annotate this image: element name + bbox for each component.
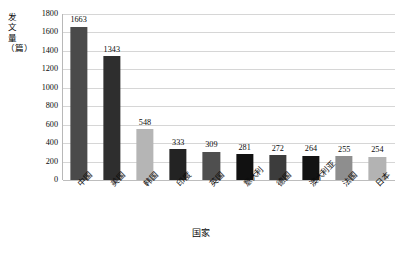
bar-group: 1663 bbox=[62, 14, 95, 180]
y-axis-title: 发文量（篇） bbox=[6, 12, 19, 54]
bar-value-label: 333 bbox=[172, 139, 184, 147]
bar-chart: 发文量（篇） 020040060080010001200140016001800… bbox=[0, 0, 401, 255]
bar-group: 272 bbox=[261, 14, 294, 180]
bar bbox=[70, 27, 87, 180]
bar-value-label: 1663 bbox=[70, 16, 86, 24]
y-axis-tick-labels: 020040060080010001200140016001800 bbox=[20, 14, 58, 180]
y-axis-tick: 1800 bbox=[20, 10, 58, 18]
y-axis-tick: 400 bbox=[20, 139, 58, 147]
bar-value-label: 548 bbox=[139, 119, 151, 127]
bar-group: 309 bbox=[195, 14, 228, 180]
y-axis-tick: 1400 bbox=[20, 47, 58, 55]
x-axis-tick-labels: 中国美国韩国印度英国意大利德国澳大利亚法国日本 bbox=[62, 182, 394, 222]
y-axis-tick: 1600 bbox=[20, 28, 58, 36]
bar-group: 255 bbox=[328, 14, 361, 180]
y-axis-tick: 600 bbox=[20, 121, 58, 129]
bar-value-label: 254 bbox=[371, 146, 383, 154]
bar-value-label: 309 bbox=[205, 141, 217, 149]
y-axis-tick: 200 bbox=[20, 157, 58, 165]
bar-group: 333 bbox=[162, 14, 195, 180]
bar-group: 1343 bbox=[95, 14, 128, 180]
bar-value-label: 272 bbox=[272, 145, 284, 153]
y-axis-tick: 1200 bbox=[20, 65, 58, 73]
bar-group: 548 bbox=[128, 14, 161, 180]
bar-value-label: 255 bbox=[338, 146, 350, 154]
bar-group: 281 bbox=[228, 14, 261, 180]
y-axis-tick: 0 bbox=[20, 176, 58, 184]
bars-layer: 16631343548333309281272264255254 bbox=[62, 14, 394, 180]
bar-value-label: 1343 bbox=[104, 46, 120, 54]
bar-value-label: 264 bbox=[305, 145, 317, 153]
y-axis-tick: 1000 bbox=[20, 84, 58, 92]
bar-group: 254 bbox=[361, 14, 394, 180]
bar-group: 264 bbox=[294, 14, 327, 180]
x-axis-title: 国家 bbox=[0, 228, 401, 238]
bar-value-label: 281 bbox=[238, 144, 250, 152]
bar bbox=[103, 56, 120, 180]
y-axis-tick: 800 bbox=[20, 102, 58, 110]
